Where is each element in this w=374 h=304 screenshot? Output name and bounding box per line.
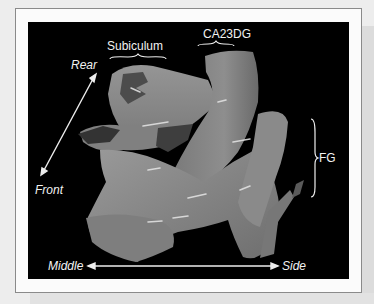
subiculum-brace bbox=[110, 54, 166, 59]
ca23dg-brace bbox=[198, 41, 234, 46]
label-side: Side bbox=[282, 260, 306, 272]
label-ca23dg: CA23DG bbox=[203, 28, 251, 40]
tail-fragment bbox=[292, 180, 304, 198]
label-subiculum: Subiculum bbox=[107, 40, 163, 52]
middle-side-arrow bbox=[88, 263, 278, 269]
label-front: Front bbox=[35, 184, 63, 196]
rear-front-arrow bbox=[41, 74, 96, 175]
frame-shadow-right bbox=[361, 26, 374, 304]
label-fg: FG bbox=[319, 152, 336, 164]
figure-panel: Subiculum CA23DG FG Rear Front Middle Si… bbox=[28, 22, 349, 279]
fg-brace bbox=[311, 119, 318, 197]
label-middle: Middle bbox=[48, 260, 83, 272]
frame-shadow-bottom bbox=[30, 293, 374, 304]
label-rear: Rear bbox=[71, 59, 97, 71]
